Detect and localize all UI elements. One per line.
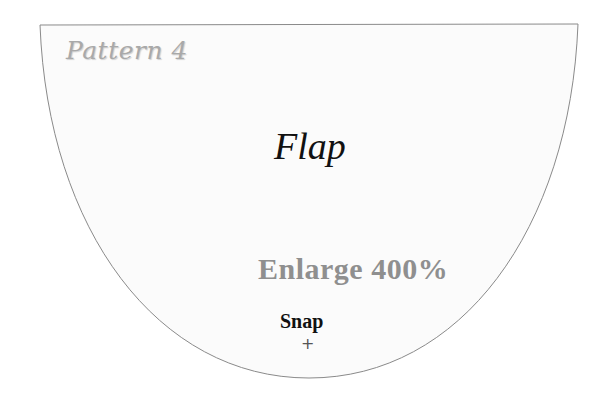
piece-label: Flap — [274, 124, 346, 168]
enlarge-instruction: Enlarge 400% — [258, 252, 448, 286]
snap-label: Snap — [280, 310, 323, 333]
snap-marker-icon: + — [301, 336, 314, 352]
pattern-title: Pattern 4 — [66, 36, 188, 65]
